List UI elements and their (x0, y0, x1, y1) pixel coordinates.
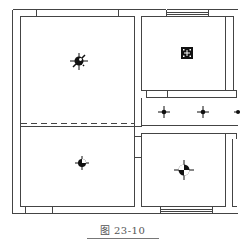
partition-wall (135, 17, 142, 207)
top-window (167, 10, 209, 17)
caption-underline (87, 238, 159, 239)
square-light-fixture-icon (181, 47, 193, 59)
left-room (21, 17, 135, 207)
downlight-icon (234, 110, 240, 114)
downlight-icon (197, 106, 209, 118)
ceiling-light-round-icon (75, 156, 89, 170)
floor-plan-drawing (0, 0, 245, 245)
ceiling-light-splat-icon (70, 53, 88, 70)
figure-caption: 图 23-10 (0, 222, 245, 237)
downlight-icon (158, 106, 170, 118)
ceiling-light-large-round-icon (174, 160, 194, 180)
bottom-window (161, 207, 213, 214)
